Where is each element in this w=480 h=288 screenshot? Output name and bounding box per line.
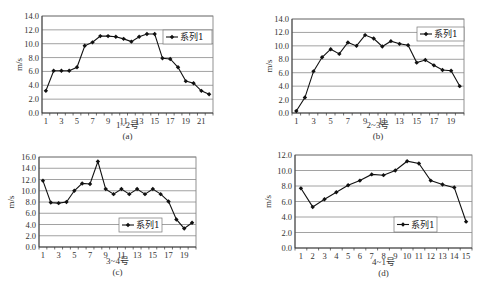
x-tick-label: 7 bbox=[346, 116, 350, 126]
y-tick-label: 12.0 bbox=[277, 150, 292, 160]
y-tick-label: 6.0 bbox=[25, 208, 36, 218]
x-tick-label: 19 bbox=[447, 116, 456, 126]
y-tick-label: 0.0 bbox=[28, 108, 39, 118]
chart-panel-c: 0.02.04.06.08.010.012.014.016.0135791113… bbox=[6, 152, 196, 277]
y-tick-label: 0.0 bbox=[25, 242, 36, 252]
figure-caption: (d) bbox=[378, 268, 389, 278]
legend: 系列1 bbox=[394, 217, 437, 232]
chart-panel-d: 0.02.04.06.08.010.012.012345678910111213… bbox=[263, 150, 472, 278]
x-tick-label: 1 bbox=[299, 251, 303, 261]
legend: 系列1 bbox=[119, 218, 162, 232]
x-tick-label: 17 bbox=[164, 250, 173, 260]
x-axis-title: 2~3号 bbox=[367, 120, 390, 130]
x-tick-label: 17 bbox=[430, 116, 439, 126]
x-tick-label: 3 bbox=[59, 116, 63, 126]
x-tick-label: 11 bbox=[415, 251, 423, 261]
x-tick-label: 13 bbox=[133, 250, 142, 260]
x-tick-label: 9 bbox=[106, 116, 110, 126]
chart-canvas: 0.02.04.06.08.010.012.014.01357911131517… bbox=[0, 0, 480, 288]
y-tick-label: 4.0 bbox=[278, 81, 289, 91]
y-tick-label: 2.0 bbox=[25, 231, 36, 241]
legend-label: 系列1 bbox=[411, 219, 435, 230]
x-tick-label: 3 bbox=[322, 251, 326, 261]
x-tick-label: 12 bbox=[426, 251, 435, 261]
x-tick-label: 15 bbox=[412, 116, 421, 126]
x-tick-label: 4 bbox=[334, 251, 339, 261]
x-tick-label: 10 bbox=[403, 251, 412, 261]
legend: 系列1 bbox=[163, 30, 212, 44]
y-tick-label: 8.0 bbox=[281, 181, 292, 191]
x-tick-label: 5 bbox=[75, 116, 79, 126]
y-tick-label: 2.0 bbox=[281, 228, 292, 238]
y-tick-label: 10.0 bbox=[24, 39, 39, 49]
x-tick-label: 6 bbox=[358, 251, 362, 261]
y-tick-label: 8.0 bbox=[25, 197, 36, 207]
y-tick-label: 10.0 bbox=[274, 41, 289, 51]
x-tick-label: 15 bbox=[462, 251, 471, 261]
y-tick-label: 16.0 bbox=[21, 152, 36, 162]
y-tick-label: 14.0 bbox=[24, 11, 39, 21]
y-tick-label: 4.0 bbox=[281, 212, 292, 222]
x-tick-label: 19 bbox=[182, 116, 191, 126]
x-tick-label: 5 bbox=[346, 251, 350, 261]
x-tick-label: 13 bbox=[395, 116, 404, 126]
x-tick-label: 3 bbox=[57, 250, 61, 260]
y-tick-label: 0.0 bbox=[281, 243, 292, 253]
y-tick-label: 0.0 bbox=[278, 108, 289, 118]
y-tick-label: 4.0 bbox=[25, 220, 36, 230]
y-tick-label: 10.0 bbox=[21, 186, 36, 196]
y-tick-label: 14.0 bbox=[21, 163, 36, 173]
legend: 系列1 bbox=[417, 27, 464, 41]
chart-panel-b: 0.02.04.06.08.010.012.014.01357911131517… bbox=[264, 14, 464, 141]
figure-caption: (b) bbox=[373, 131, 384, 141]
x-tick-label: 19 bbox=[180, 250, 189, 260]
y-tick-label: 2.0 bbox=[278, 95, 289, 105]
x-tick-label: 5 bbox=[72, 250, 76, 260]
x-tick-label: 13 bbox=[438, 251, 447, 261]
y-tick-label: 12.0 bbox=[274, 27, 289, 37]
x-tick-label: 1 bbox=[294, 116, 298, 126]
legend-label: 系列1 bbox=[136, 219, 160, 230]
x-tick-label: 1 bbox=[44, 116, 48, 126]
legend-label: 系列1 bbox=[434, 28, 458, 39]
x-tick-label: 3 bbox=[311, 116, 315, 126]
y-axis-title: m/s bbox=[14, 58, 24, 72]
y-tick-label: 10.0 bbox=[277, 166, 292, 176]
y-tick-label: 12.0 bbox=[21, 175, 36, 185]
y-axis-title: m/s bbox=[264, 59, 274, 73]
x-tick-label: 7 bbox=[90, 116, 94, 126]
x-axis-title: 1~2号 bbox=[116, 120, 139, 130]
y-tick-label: 8.0 bbox=[28, 53, 39, 63]
x-tick-label: 15 bbox=[150, 116, 159, 126]
y-tick-label: 2.0 bbox=[28, 94, 39, 104]
y-tick-label: 8.0 bbox=[278, 54, 289, 64]
y-axis-title: m/s bbox=[263, 195, 273, 209]
y-tick-label: 6.0 bbox=[281, 197, 292, 207]
x-tick-label: 21 bbox=[197, 116, 206, 126]
x-tick-label: 2 bbox=[311, 251, 315, 261]
y-tick-label: 12.0 bbox=[24, 25, 39, 35]
x-tick-label: 5 bbox=[329, 116, 333, 126]
x-tick-label: 1 bbox=[41, 250, 45, 260]
x-axis-title: 4~1号 bbox=[372, 257, 395, 267]
x-tick-label: 7 bbox=[88, 250, 92, 260]
y-tick-label: 14.0 bbox=[274, 14, 289, 24]
legend-label: 系列1 bbox=[180, 31, 204, 42]
y-tick-label: 6.0 bbox=[278, 68, 289, 78]
x-tick-label: 17 bbox=[166, 116, 175, 126]
chart-panel-a: 0.02.04.06.08.010.012.014.01357911131517… bbox=[14, 11, 213, 141]
figure-caption: (a) bbox=[123, 131, 133, 141]
figure-caption: (c) bbox=[113, 267, 123, 277]
y-tick-label: 4.0 bbox=[28, 80, 39, 90]
x-axis-title: 3~4号 bbox=[106, 256, 129, 266]
y-tick-label: 6.0 bbox=[28, 66, 39, 76]
x-tick-label: 15 bbox=[149, 250, 158, 260]
y-axis-title: m/s bbox=[6, 195, 16, 209]
x-tick-label: 14 bbox=[450, 251, 459, 261]
